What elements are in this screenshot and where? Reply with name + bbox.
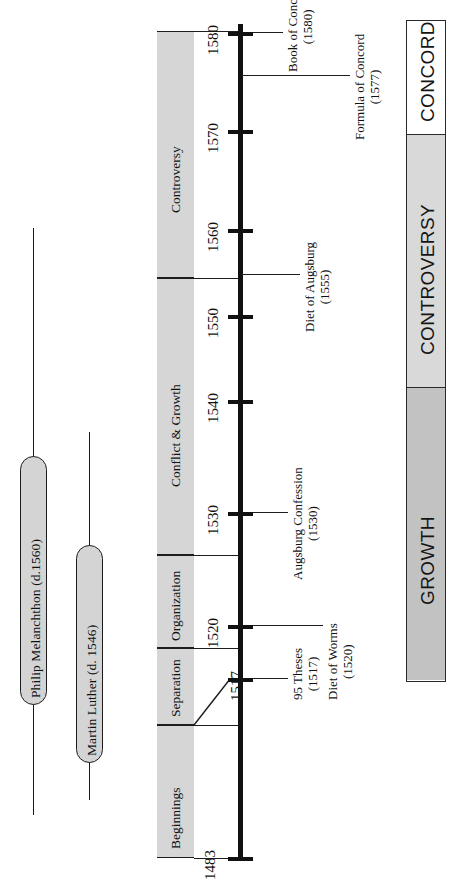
connector-formula-of-concord — [241, 75, 350, 76]
connector-diet-of-worms — [253, 625, 323, 626]
melanchthon-label: Philip Melanchthon (d.1560) — [28, 539, 44, 698]
event-label-augsburg-confession: Augsburg Confession (1530) — [291, 467, 320, 580]
tick-label-1530: 1530 — [205, 505, 222, 535]
tick-label-1560: 1560 — [205, 222, 222, 252]
tick-1483 — [228, 857, 253, 861]
tick-1580 — [228, 32, 253, 36]
event-label-book-of-concord: Book of Concord (1580) — [286, 0, 315, 72]
luther-label: Martin Luther (d. 1546) — [84, 625, 100, 756]
phase-label-controversy: CONTROVERSY — [417, 204, 439, 355]
connector-95-theses — [253, 678, 288, 679]
period-label-organization: Organization — [168, 571, 184, 641]
phase-divider-controversy-growth — [407, 387, 445, 388]
tick-1540 — [228, 400, 253, 404]
tick-label-1540: 1540 — [205, 393, 222, 423]
tick-1560 — [228, 229, 253, 233]
tick-1520 — [228, 625, 253, 629]
tick-1550 — [228, 315, 253, 319]
tick-1530 — [228, 512, 253, 516]
connector-diet-of-augsburg — [241, 274, 300, 275]
event-label-diet-of-worms: Diet of Worms (1520) — [326, 623, 355, 700]
connector-augsburg-confession — [253, 512, 288, 513]
period-label-beginnings: Beginnings — [168, 787, 184, 849]
tick-1570 — [228, 130, 253, 134]
event-label-formula-of-concord: Formula of Concord (1577) — [353, 34, 382, 140]
tick-label-1483: 1483 — [202, 850, 219, 880]
tick-label-1570: 1570 — [205, 123, 222, 153]
period-rule-conflict-growth-bottom — [194, 555, 240, 556]
phase-divider-concord-controversy — [407, 134, 445, 135]
tick-label-1550: 1550 — [205, 308, 222, 338]
period-label-conflict-growth: Conflict & Growth — [168, 384, 184, 487]
timeline-axis — [238, 24, 243, 860]
period-label-separation: Separation — [168, 659, 184, 717]
event-label-95-theses: 95 Theses (1517) — [291, 648, 320, 700]
event-label-diet-of-augsburg: Diet of Augsburg (1555) — [303, 242, 332, 332]
tick-label-1580: 1580 — [205, 25, 222, 55]
timeline-figure: Philip Melanchthon (d.1560) Martin Luthe… — [0, 0, 452, 883]
tick-label-1520: 1520 — [205, 618, 222, 648]
connector-book-of-concord — [253, 32, 283, 33]
period-label-controversy: Controversy — [168, 146, 184, 213]
tick-label-1517: 1517 — [228, 671, 245, 701]
phase-label-growth: GROWTH — [417, 516, 439, 605]
period-rule-separation-bottom — [194, 725, 240, 726]
phase-label-concord: CONCORD — [417, 21, 439, 122]
period-rule-controversy-bottom — [194, 278, 240, 279]
